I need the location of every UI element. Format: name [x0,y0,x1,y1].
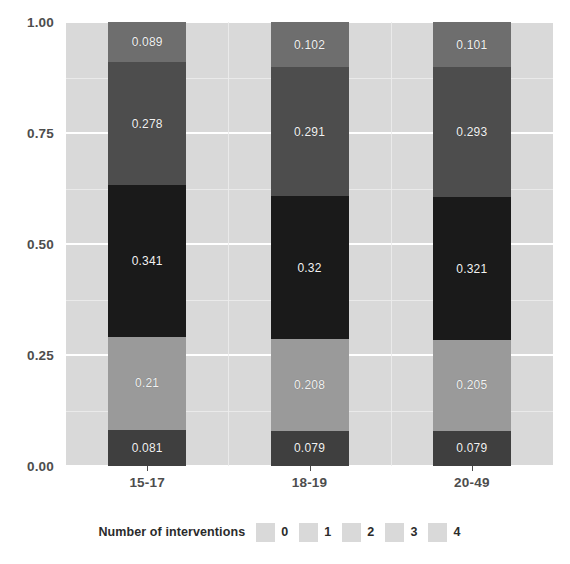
bar-segment-value-label: 0.291 [294,125,325,139]
x-tick-mark [472,466,473,471]
bar-segment-value-label: 0.21 [135,376,159,390]
bar-segment-value-label: 0.079 [294,441,325,455]
bar-segment-value-label: 0.341 [132,254,163,268]
bar-segment: 0.293 [433,67,511,197]
bar-segment: 0.205 [433,340,511,431]
y-tick-label: 0.75 [27,126,54,141]
legend-item-label: 1 [324,525,331,539]
legend-item[interactable]: 1 [299,523,338,542]
gridline-minor-vertical [391,22,392,466]
bar-segment-value-label: 0.101 [456,38,487,52]
y-tick-label: 0.25 [27,348,54,363]
bar-segment: 0.089 [108,22,186,62]
y-tick-label: 0.00 [27,459,54,474]
x-tick-label: 15-17 [129,475,165,490]
x-tick-mark [147,466,148,471]
bar-stack: 0.0890.2780.3410.210.081 [108,22,186,466]
bar-segment-value-label: 0.293 [456,125,487,139]
bar-segment-value-label: 0.079 [456,441,487,455]
x-tick-label: 18-19 [292,475,328,490]
x-axis: 15-1718-1920-49 [66,466,553,500]
x-tick-label: 20-49 [454,475,490,490]
legend-item-label: 3 [410,525,417,539]
bar-segment: 0.101 [433,22,511,67]
plot-panel: 0.0890.2780.3410.210.0810.1020.2910.320.… [66,22,553,466]
bar-segment-value-label: 0.089 [132,35,163,49]
x-tick-mark [310,466,311,471]
legend-swatch [256,523,275,542]
legend-item-label: 4 [453,525,460,539]
legend-item[interactable]: 4 [428,523,467,542]
stacked-bar-chart: 0.000.250.500.751.00 0.0890.2780.3410.21… [0,0,570,564]
bar-segment: 0.32 [271,196,349,338]
bar-segment: 0.21 [108,337,186,430]
bar-segment-value-label: 0.321 [456,262,487,276]
bar-segment-value-label: 0.208 [294,378,325,392]
legend-swatch [299,523,318,542]
bar-segment-value-label: 0.081 [132,441,163,455]
bar-segment-value-label: 0.102 [294,38,325,52]
legend-item-label: 0 [281,525,288,539]
bar-segment: 0.341 [108,185,186,336]
bar-stack: 0.1020.2910.320.2080.079 [271,22,349,466]
bar-stack: 0.1010.2930.3210.2050.079 [433,22,511,466]
y-tick-label: 1.00 [27,15,54,30]
bar-segment: 0.079 [271,431,349,466]
bar-segment: 0.321 [433,197,511,340]
bar-segment: 0.102 [271,22,349,67]
legend-swatch [428,523,447,542]
bar-segment: 0.208 [271,339,349,431]
legend-item[interactable]: 2 [342,523,381,542]
legend-item[interactable]: 3 [385,523,424,542]
legend-swatch [342,523,361,542]
bar-segment-value-label: 0.278 [132,117,163,131]
legend-title: Number of interventions [98,525,245,539]
bar-segment-value-label: 0.205 [456,378,487,392]
bar-segment: 0.081 [108,430,186,466]
bar-segment: 0.079 [433,431,511,466]
bar-segment: 0.291 [271,67,349,196]
bar-segment: 0.278 [108,62,186,185]
bar-segment-value-label: 0.32 [297,261,321,275]
legend-item[interactable]: 0 [256,523,295,542]
legend-item-label: 2 [367,525,374,539]
y-tick-label: 0.50 [27,237,54,252]
legend-swatch [385,523,404,542]
y-axis: 0.000.250.500.751.00 [0,22,62,466]
gridline-minor-vertical [228,22,229,466]
chart-legend: Number of interventions 01234 [0,517,570,547]
